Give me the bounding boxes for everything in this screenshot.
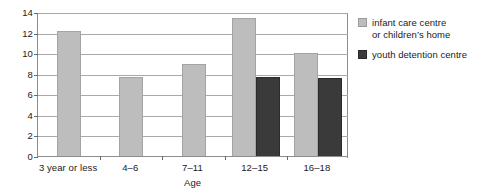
y-axis-tick-mark: [34, 54, 38, 55]
gridline: [38, 13, 348, 14]
x-axis-category-label: 7–11: [182, 162, 203, 173]
y-axis-tick-label: 10: [14, 49, 33, 59]
legend-item-label: infant care centre or children’s home: [372, 17, 450, 40]
x-axis-category-label: 12–15: [241, 162, 268, 173]
y-axis-tick-mark: [34, 75, 38, 76]
bar: [182, 64, 206, 156]
light-gray-swatch-icon: [358, 18, 367, 27]
bar: [119, 77, 143, 156]
legend-label-line1: youth detention centre: [372, 49, 467, 60]
x-axis-category-label: 4–6: [122, 162, 138, 173]
y-axis-tick-label: 14: [14, 8, 33, 18]
dark-gray-swatch-icon: [358, 50, 367, 59]
y-axis-tick-mark: [34, 116, 38, 117]
legend-item-infant-care-centre[interactable]: infant care centre or children’s home: [358, 17, 484, 40]
y-axis-tick-mark: [34, 157, 38, 158]
legend-item-label: youth detention centre: [372, 49, 467, 61]
y-axis-tick-labels: 02468101214: [14, 0, 33, 196]
y-axis-tick-mark: [34, 136, 38, 137]
x-axis-title: Age: [37, 177, 348, 188]
chart-legend: infant care centre or children’s home yo…: [358, 17, 484, 70]
y-axis-tick-label: 8: [14, 70, 33, 80]
plot-area: [37, 13, 348, 157]
bar: [294, 53, 318, 156]
x-axis-category-label: 16–18: [303, 162, 330, 173]
x-axis-category-label: 3 year or less: [39, 162, 97, 173]
bar: [318, 78, 342, 156]
x-axis-tick-mark: [162, 156, 163, 160]
legend-item-youth-detention-centre[interactable]: youth detention centre: [358, 49, 484, 61]
y-axis-tick-label: 6: [14, 91, 33, 101]
x-axis-tick-mark: [287, 156, 288, 160]
legend-label-line2: or children’s home: [372, 29, 450, 40]
legend-label-line1: infant care centre: [372, 17, 446, 28]
x-axis-tick-mark: [225, 156, 226, 160]
bar: [232, 18, 256, 156]
y-axis-tick-label: 2: [14, 132, 33, 142]
bar-chart: 02468101214 3 year or less4–67–1112–1516…: [0, 0, 484, 196]
y-axis-tick-label: 12: [14, 29, 33, 39]
bar: [256, 77, 280, 156]
y-axis-tick-label: 0: [14, 152, 33, 162]
bar: [57, 31, 81, 156]
y-axis-tick-mark: [34, 34, 38, 35]
y-axis-tick-label: 4: [14, 111, 33, 121]
y-axis-tick-mark: [34, 95, 38, 96]
gridline: [38, 34, 348, 35]
y-axis-tick-mark: [34, 13, 38, 14]
x-axis-tick-mark: [100, 156, 101, 160]
